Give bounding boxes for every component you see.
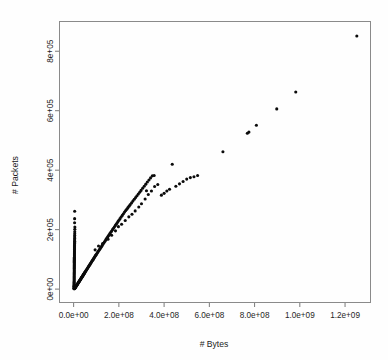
data-point: [165, 189, 168, 192]
data-point: [160, 194, 163, 197]
y-tick-label: 0e+00: [46, 277, 55, 300]
y-axis-title: # Packets: [10, 156, 20, 194]
data-point: [94, 248, 97, 251]
data-point: [153, 174, 156, 177]
data-point: [147, 193, 150, 196]
data-point: [140, 202, 143, 205]
data-point: [221, 150, 224, 153]
x-tick-label: 8.0e+08: [240, 311, 270, 320]
data-point: [168, 188, 171, 191]
data-point: [134, 209, 137, 212]
data-point: [174, 185, 177, 188]
y-tick-label: 2e+05: [46, 218, 55, 241]
data-point: [144, 197, 147, 200]
x-tick-label: 6.0e+08: [194, 311, 224, 320]
data-point: [156, 183, 159, 186]
data-point: [196, 174, 199, 177]
x-tick-label: 1.2e+09: [330, 311, 360, 320]
data-point: [185, 178, 188, 181]
y-tick-label: 6e+05: [46, 99, 55, 122]
data-point: [178, 182, 181, 185]
data-point: [130, 213, 133, 216]
data-point: [247, 131, 250, 134]
x-tick-label: 1.0e+09: [285, 311, 315, 320]
data-point: [189, 176, 192, 179]
data-point: [150, 189, 153, 192]
y-tick-label: 8e+05: [46, 39, 55, 62]
data-point: [137, 206, 140, 209]
x-tick-label: 0.0e+00: [59, 311, 89, 320]
data-point: [294, 90, 297, 93]
data-point: [355, 35, 358, 38]
x-tick-label: 4.0e+08: [149, 311, 179, 320]
data-point: [255, 124, 258, 127]
data-point: [124, 219, 127, 222]
data-point: [110, 234, 113, 237]
data-point: [73, 217, 76, 220]
x-axis-title: # Bytes: [200, 339, 229, 349]
data-point: [114, 229, 117, 232]
x-tick-label: 2.0e+08: [104, 311, 134, 320]
data-point: [171, 163, 174, 166]
data-point: [163, 192, 166, 195]
data-point: [117, 225, 120, 228]
data-point: [182, 180, 185, 183]
chart-background: [0, 0, 388, 360]
y-tick-label: 4e+05: [46, 158, 55, 181]
data-point: [127, 215, 130, 218]
data-point: [97, 244, 100, 247]
data-point: [101, 242, 104, 245]
data-point: [106, 238, 109, 241]
data-point: [73, 210, 76, 213]
data-point: [145, 189, 148, 192]
data-point: [192, 175, 195, 178]
data-point: [275, 107, 278, 110]
data-point: [73, 221, 76, 224]
scatter-plot-figure: 0.0e+002.0e+084.0e+086.0e+088.0e+081.0e+…: [0, 0, 388, 360]
chart-canvas: 0.0e+002.0e+084.0e+086.0e+088.0e+081.0e+…: [0, 0, 388, 360]
data-point: [120, 223, 123, 226]
data-point: [153, 185, 156, 188]
data-point: [73, 225, 76, 228]
